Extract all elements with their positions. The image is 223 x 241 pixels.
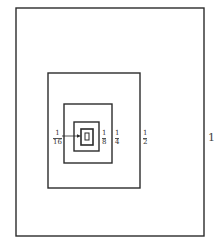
label-sixteenth: 1 16 — [53, 130, 62, 146]
label-half: 1 2 — [143, 130, 147, 146]
numerator: 1 — [102, 130, 106, 137]
rect-thirtysecond — [85, 133, 89, 140]
denominator: 16 — [53, 139, 62, 146]
label-one: 1 — [208, 131, 215, 144]
numerator: 1 — [115, 130, 119, 137]
label-quarter: 1 4 — [115, 130, 119, 146]
label-eighth: 1 8 — [102, 130, 106, 146]
numerator: 1 — [143, 130, 147, 137]
rect-sixteenth — [81, 129, 93, 145]
rect-1 — [16, 8, 204, 236]
denominator: 4 — [115, 139, 119, 146]
numerator: 1 — [55, 130, 59, 137]
nested-rectangles-diagram — [0, 0, 223, 241]
denominator: 2 — [143, 139, 147, 146]
denominator: 8 — [102, 139, 106, 146]
